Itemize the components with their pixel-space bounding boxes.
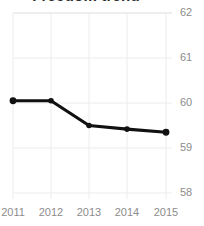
vertical-gridlines xyxy=(13,13,166,199)
y-axis-tick-60: 60 xyxy=(180,96,192,108)
data-point-2011 xyxy=(10,97,17,104)
data-point-2015 xyxy=(163,129,170,136)
y-axis-tick-62: 62 xyxy=(180,6,192,18)
line-chart: Freedom trend 62 61 60 59 58 2011 2012 2… xyxy=(0,0,204,226)
horizontal-gridlines xyxy=(13,13,172,193)
x-axis-tick-2015: 2015 xyxy=(146,206,186,218)
y-axis-tick-59: 59 xyxy=(180,141,192,153)
data-point-2012 xyxy=(48,98,54,104)
x-axis-tick-2011: 2011 xyxy=(0,206,33,218)
x-axis-tick-2014: 2014 xyxy=(107,206,147,218)
y-axis-tick-61: 61 xyxy=(180,51,192,63)
x-axis-tick-2013: 2013 xyxy=(69,206,109,218)
y-axis-tick-58: 58 xyxy=(180,186,192,198)
plot-area xyxy=(0,0,204,226)
x-axis-tick-2012: 2012 xyxy=(31,206,71,218)
data-point-2014 xyxy=(124,126,130,132)
data-point-2013 xyxy=(86,123,92,129)
